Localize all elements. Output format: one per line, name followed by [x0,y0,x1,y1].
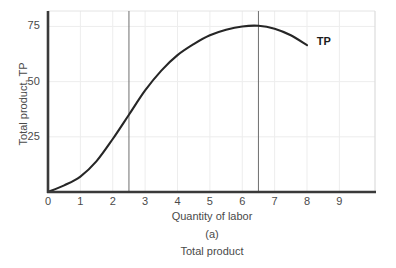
panel-letter: (a) [48,228,376,240]
x-axis-title: Quantity of labor [48,210,376,222]
x-tick-label: 5 [198,195,222,207]
x-tick-label: 1 [68,195,92,207]
curve-label-tp: TP [317,35,331,47]
x-tick-label: 9 [327,195,351,207]
y-tick-label: 75 [14,19,40,31]
panel-caption: Total product [48,245,376,257]
x-tick-label: 0 [36,195,60,207]
x-tick-label: 7 [263,195,287,207]
x-tick-label: 6 [230,195,254,207]
x-tick-label: 3 [133,195,157,207]
y-axis-title: Total product, TP [17,39,29,169]
x-tick-label: 2 [101,195,125,207]
x-tick-label: 8 [295,195,319,207]
x-tick-label: 4 [166,195,190,207]
total-product-chart-figure: 0123456789 255075 Total product, TP Quan… [0,0,396,268]
reference-lines-group [129,11,259,192]
